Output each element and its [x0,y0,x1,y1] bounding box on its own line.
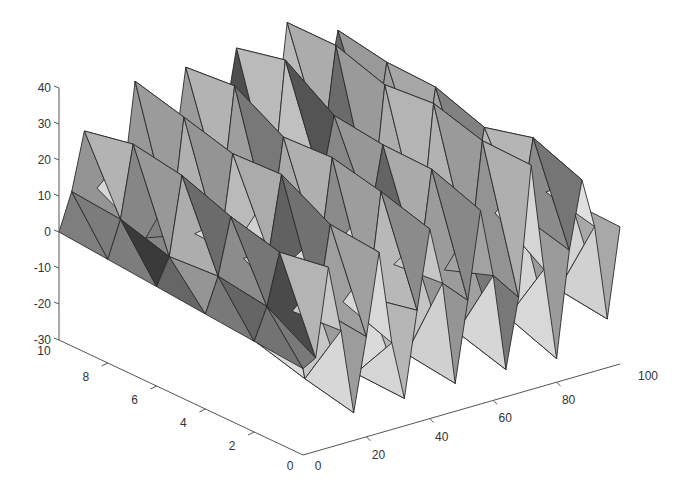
y-axis-ticks: 1086420 [37,344,293,473]
z-tick-label: -20 [34,297,52,311]
surface-mesh [59,23,620,413]
y-tick-label: 6 [131,393,138,407]
y-tick [102,363,108,366]
x-tick-label: 60 [499,411,513,425]
z-tick-label: 0 [44,225,51,239]
x-tick-label: 40 [435,430,449,444]
y-axis-line [59,340,303,455]
y-tick [248,432,254,435]
z-tick [54,122,59,124]
z-tick [54,338,59,340]
z-tick [54,86,59,88]
x-tick [366,437,370,441]
y-tick [199,409,205,412]
z-tick-label: 30 [38,117,52,131]
y-tick-label: 2 [229,439,236,453]
z-tick-label: -10 [34,261,52,275]
y-tick [151,386,157,389]
surface-plot-canvas: 403020100-10-20-30 1086420 020406080100 [0,0,676,497]
z-tick [54,230,59,232]
x-axis-ticks: 020406080100 [315,369,659,473]
x-tick-label: 0 [315,459,322,473]
z-axis-ticks: 403020100-10-20-30 [34,81,59,347]
x-tick [493,400,497,404]
y-tick-label: 8 [82,370,89,384]
x-tick-label: 80 [562,393,576,407]
y-tick-label: 10 [37,344,51,358]
z-tick [54,158,59,160]
z-tick-label: 20 [38,153,52,167]
z-tick [54,302,59,304]
x-tick-label: 20 [372,448,386,462]
x-tick [557,382,561,386]
z-tick-label: 40 [38,81,52,95]
x-tick [430,419,434,423]
z-tick [54,266,59,268]
z-tick-label: 10 [38,189,52,203]
z-tick [54,194,59,196]
y-tick-label: 0 [287,459,294,473]
surface-plot: 403020100-10-20-30 1086420 020406080100 [0,0,676,497]
y-tick-label: 4 [180,416,187,430]
x-tick-label: 100 [638,369,658,383]
